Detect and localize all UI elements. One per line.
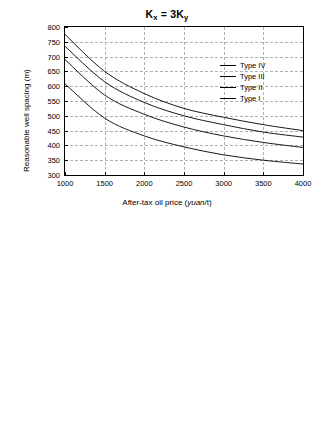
x-tick-label: 3000 — [215, 179, 232, 188]
x-tick-mark — [303, 172, 304, 175]
legend-line-icon — [220, 65, 236, 66]
y-axis-label-top: Reasonable well spacing (m) — [22, 69, 31, 172]
y-tick-label: 400 — [36, 141, 60, 150]
x-tick-label: 3500 — [255, 179, 272, 188]
x-tick-label: 2500 — [176, 179, 193, 188]
legend-item: Type I — [220, 93, 265, 104]
chart-title-top: Kx = 3Ky — [0, 8, 334, 20]
chart-panel-bottom: Kx = Ky Reasonable well spacing (m) Afte… — [0, 220, 334, 440]
legend-label: Type II — [240, 82, 263, 93]
chart-panel-top: Kx = 3Ky Reasonable well spacing (m) Aft… — [0, 0, 334, 220]
legend-label: Type IV — [240, 60, 265, 71]
legend-label: Type I — [240, 93, 260, 104]
x-tick-label: 4000 — [295, 179, 312, 188]
series-layer — [65, 27, 303, 175]
y-tick-label: 500 — [36, 111, 60, 120]
series-line-type-i — [65, 84, 303, 164]
y-tick-label: 450 — [36, 126, 60, 135]
y-tick-label: 550 — [36, 97, 60, 106]
x-tick-label: 1000 — [57, 179, 74, 188]
series-line-type-ii — [65, 60, 303, 148]
legend-top: Type IV Type III Type II Type I — [220, 60, 265, 104]
legend-item: Type III — [220, 71, 265, 82]
y-tick-mark — [65, 175, 68, 176]
y-tick-label: 700 — [36, 52, 60, 61]
legend-line-icon — [220, 76, 236, 77]
plot-area-top — [64, 26, 304, 176]
legend-line-icon — [220, 98, 236, 99]
y-tick-label: 600 — [36, 82, 60, 91]
y-tick-label: 800 — [36, 23, 60, 32]
legend-label: Type III — [240, 71, 265, 82]
x-axis-label-top: After-tax oil price (yuan/t) — [0, 198, 334, 207]
x-tick-label: 1500 — [96, 179, 113, 188]
x-tick-label: 2000 — [136, 179, 153, 188]
legend-line-icon — [220, 87, 236, 88]
y-tick-label: 650 — [36, 67, 60, 76]
legend-item: Type IV — [220, 60, 265, 71]
legend-item: Type II — [220, 82, 265, 93]
y-tick-label: 350 — [36, 156, 60, 165]
y-tick-label: 750 — [36, 37, 60, 46]
figure-container: Kx = 3Ky Reasonable well spacing (m) Aft… — [0, 0, 334, 440]
